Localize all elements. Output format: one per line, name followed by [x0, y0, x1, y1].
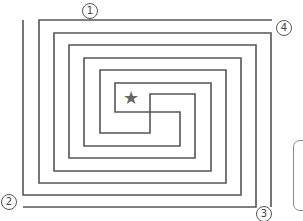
- maze-wall-1: [23, 20, 271, 207]
- entrance-label-4: 4: [276, 20, 292, 36]
- maze-diagram: ★: [0, 0, 303, 221]
- entrance-label-3: 3: [256, 206, 272, 221]
- entrance-label-2: 2: [1, 194, 17, 210]
- answer-box: [293, 140, 303, 211]
- maze-wall-2: [23, 20, 272, 207]
- entrance-label-1: 1: [82, 3, 98, 19]
- star-icon: ★: [123, 87, 139, 108]
